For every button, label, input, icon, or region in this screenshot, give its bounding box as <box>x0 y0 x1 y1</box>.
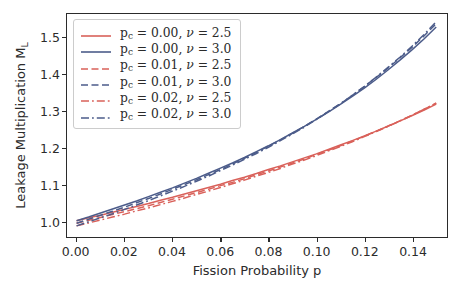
y-tick-mark <box>62 37 66 38</box>
legend-swatch-icon <box>81 109 111 121</box>
legend: pc = 0.00, ν = 2.5pc = 0.00, ν = 3.0pc =… <box>73 19 241 129</box>
legend-item-pc_0.00_nu_3.0[interactable]: pc = 0.00, ν = 3.0 <box>81 41 231 57</box>
y-tick-mark <box>62 148 66 149</box>
legend-swatch-icon <box>81 43 111 55</box>
x-tick-mark <box>413 238 414 242</box>
legend-label: pc = 0.02, ν = 2.5 <box>120 91 231 106</box>
y-tick-label: 1.3 <box>40 103 60 118</box>
y-tick-mark <box>62 185 66 186</box>
x-tick-mark <box>268 238 269 242</box>
y-tick-label: 1.1 <box>40 177 60 192</box>
legend-swatch-icon <box>81 92 111 104</box>
x-tick-label: 0.12 <box>351 244 379 259</box>
x-tick-label: 0.06 <box>206 244 234 259</box>
x-tick-label: 0.00 <box>62 244 90 259</box>
x-tick-mark <box>76 238 77 242</box>
x-tick-mark <box>220 238 221 242</box>
legend-item-pc_0.00_nu_2.5[interactable]: pc = 0.00, ν = 2.5 <box>81 25 231 41</box>
y-tick-mark <box>62 111 66 112</box>
x-tick-mark <box>317 238 318 242</box>
legend-swatch-icon <box>81 76 111 88</box>
y-axis-label-subscript: L <box>19 42 30 47</box>
legend-label: pc = 0.01, ν = 2.5 <box>120 58 231 73</box>
y-tick-label: 1.0 <box>40 214 60 229</box>
legend-item-pc_0.02_nu_2.5[interactable]: pc = 0.02, ν = 2.5 <box>81 90 231 106</box>
x-tick-label: 0.10 <box>303 244 331 259</box>
x-tick-mark <box>124 238 125 242</box>
y-tick-label: 1.4 <box>40 67 60 82</box>
legend-label: pc = 0.02, ν = 3.0 <box>120 107 231 122</box>
x-tick-label: 0.04 <box>158 244 186 259</box>
y-axis-label-text: Leakage Multiplication M <box>13 48 28 209</box>
legend-label: pc = 0.00, ν = 2.5 <box>120 26 231 41</box>
figure: Leakage Multiplication ML Fission Probab… <box>0 0 467 288</box>
x-tick-mark <box>172 238 173 242</box>
legend-label: pc = 0.01, ν = 3.0 <box>120 75 231 90</box>
legend-item-pc_0.01_nu_2.5[interactable]: pc = 0.01, ν = 2.5 <box>81 58 231 74</box>
x-tick-label: 0.02 <box>110 244 138 259</box>
x-axis-label: Fission Probability p <box>66 263 448 278</box>
x-tick-label: 0.14 <box>399 244 427 259</box>
legend-swatch-icon <box>81 27 111 39</box>
legend-item-pc_0.01_nu_3.0[interactable]: pc = 0.01, ν = 3.0 <box>81 74 231 90</box>
y-axis-label: Leakage Multiplication ML <box>13 18 30 233</box>
y-tick-mark <box>62 74 66 75</box>
y-tick-label: 1.2 <box>40 140 60 155</box>
legend-item-pc_0.02_nu_3.0[interactable]: pc = 0.02, ν = 3.0 <box>81 106 231 122</box>
legend-label: pc = 0.00, ν = 3.0 <box>120 42 231 57</box>
x-tick-mark <box>365 238 366 242</box>
x-tick-label: 0.08 <box>255 244 283 259</box>
y-tick-mark <box>62 222 66 223</box>
y-tick-label: 1.5 <box>40 30 60 45</box>
legend-swatch-icon <box>81 60 111 72</box>
